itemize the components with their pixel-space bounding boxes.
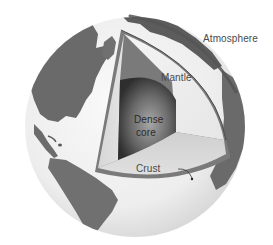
- atmosphere-label: Atmosphere: [203, 33, 258, 44]
- crust-label: Crust: [136, 163, 160, 174]
- mantle-label: Mantle: [161, 72, 192, 83]
- dense-core-label-line1: Dense: [134, 114, 163, 125]
- dense-core-label-line2: core: [136, 127, 156, 138]
